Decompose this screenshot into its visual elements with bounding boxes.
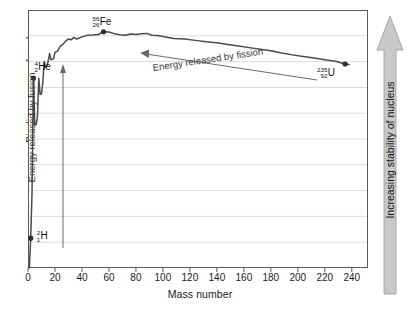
data-point-fe-56 xyxy=(101,29,106,34)
isotope-label-hydrogen-2: 21H xyxy=(37,230,48,243)
x-tick-label-120: 120 xyxy=(182,272,199,283)
x-tick-label-180: 180 xyxy=(263,272,280,283)
x-tick-label-140: 140 xyxy=(209,272,226,283)
x-tick-label-200: 200 xyxy=(289,272,306,283)
x-tick-label-160: 160 xyxy=(236,272,253,283)
x-axis-label: Mass number xyxy=(30,288,370,300)
isotope-label-uranium-235: 23592U xyxy=(317,67,335,80)
x-tick-label-40: 40 xyxy=(76,272,87,283)
x-tick-label-220: 220 xyxy=(316,272,333,283)
x-tick-label-80: 80 xyxy=(130,272,141,283)
stability-arrow-label: Increasing stability of nucleus xyxy=(384,50,396,250)
stability-arrow: Increasing stability of nucleus xyxy=(376,14,404,296)
x-axis-tick-labels: 020406080100120140160180200220240 xyxy=(0,272,410,288)
x-tick-label-240: 240 xyxy=(343,272,360,283)
plot-canvas xyxy=(0,0,410,311)
x-tick-label-60: 60 xyxy=(103,272,114,283)
isotope-label-iron-56: 5626Fe xyxy=(93,16,112,29)
binding-energy-curve-figure: Binding energy of nucleus Energy release… xyxy=(0,0,410,311)
x-tick-label-0: 0 xyxy=(25,272,31,283)
isotope-label-helium-4: 42He xyxy=(34,61,51,74)
fusion-arrow xyxy=(60,64,66,248)
data-point-h-2 xyxy=(28,236,33,241)
x-tick-label-100: 100 xyxy=(155,272,172,283)
x-tick-label-20: 20 xyxy=(49,272,60,283)
data-point-u-235 xyxy=(342,61,347,66)
fusion-annotation-label: Energy released by fusion xyxy=(26,53,37,203)
